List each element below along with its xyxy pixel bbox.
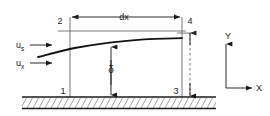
dx-label: dx — [119, 12, 129, 22]
corner-label-1: 1 — [60, 86, 65, 96]
corner-label-3: 3 — [173, 86, 178, 96]
velocity-label-ux: ux — [16, 58, 25, 70]
x-axis-label: X — [256, 83, 262, 93]
velocity-subscript-ux: x — [21, 63, 25, 70]
corner-label-2: 2 — [57, 16, 62, 26]
velocity-subscript-us: s — [21, 45, 25, 52]
corner-label-4: 4 — [187, 16, 192, 26]
boundary-layer-figure: 2 4 1 3 dx δ Y X us ux — [0, 0, 270, 116]
boundary-layer-curve — [38, 38, 182, 57]
ground-hatching — [22, 98, 216, 109]
velocity-label-us: us — [16, 40, 25, 52]
figure-canvas: 2 4 1 3 dx δ Y X us ux — [0, 0, 270, 116]
y-axis-label: Y — [225, 31, 231, 41]
delta-label: δ — [108, 64, 114, 75]
